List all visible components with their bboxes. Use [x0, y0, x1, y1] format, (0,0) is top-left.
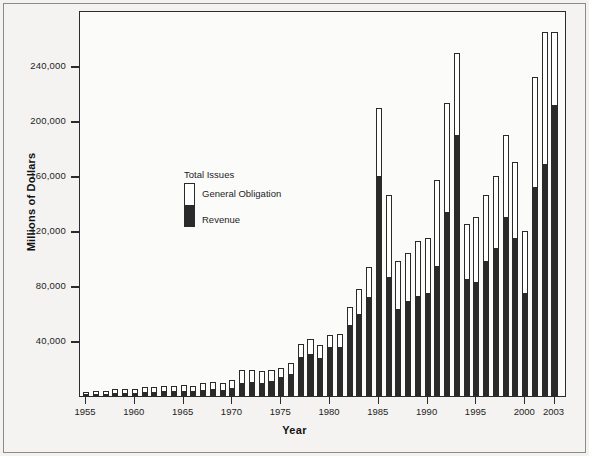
bar-segment-revenue: [132, 393, 138, 396]
bar-segment-revenue: [103, 394, 109, 396]
bar-segment-revenue: [425, 293, 431, 396]
plot-area: Total Issues General Obligation Revenue: [79, 11, 566, 397]
bar-segment-revenue: [415, 296, 421, 396]
bar-1995: [473, 217, 479, 396]
y-tick-label-120000: 120,000: [30, 225, 66, 236]
y-tick-120000: [71, 231, 79, 233]
bar-segment-general-obligation: [356, 289, 362, 315]
y-tick-label-40000: 40,000: [36, 335, 66, 346]
bar-1966: [190, 386, 196, 396]
x-tick-label-1985: 1985: [367, 406, 388, 417]
bar-segment-general-obligation: [347, 307, 353, 326]
bar-1992: [444, 103, 450, 396]
bar-segment-general-obligation: [395, 261, 401, 310]
x-tick-1975: [280, 397, 281, 404]
bar-2001: [532, 77, 538, 396]
bar-segment-revenue: [405, 301, 411, 396]
bar-segment-general-obligation: [454, 53, 460, 136]
bar-1960: [132, 389, 138, 396]
bar-1956: [93, 391, 99, 396]
x-tick-label-1955: 1955: [74, 406, 95, 417]
bar-segment-general-obligation: [464, 224, 470, 280]
bar-1981: [337, 334, 343, 397]
bar-segment-revenue: [161, 391, 167, 396]
bar-segment-revenue: [542, 164, 548, 396]
bar-1988: [405, 253, 411, 396]
x-tick-1990: [427, 397, 428, 404]
x-tick-1980: [329, 397, 330, 404]
x-tick-label-1980: 1980: [318, 406, 339, 417]
x-tick-label-1965: 1965: [172, 406, 193, 417]
bar-1961: [142, 387, 148, 396]
bar-1980: [327, 335, 333, 396]
bar-segment-revenue: [347, 325, 353, 396]
x-tick-label-2003: 2003: [543, 406, 564, 417]
bar-segment-revenue: [337, 347, 343, 396]
bar-segment-revenue: [473, 282, 479, 396]
bar-1983: [356, 289, 362, 396]
legend-swatch-icon: [184, 183, 195, 227]
bar-1957: [103, 391, 109, 396]
bar-1986: [386, 195, 392, 396]
bar-segment-revenue: [93, 394, 99, 396]
bar-segment-revenue: [278, 377, 284, 396]
bar-segment-general-obligation: [317, 345, 323, 359]
bar-2003: [551, 32, 557, 396]
bar-segment-revenue: [259, 383, 265, 396]
bar-1973: [259, 371, 265, 396]
bar-1993: [454, 53, 460, 396]
bar-1965: [181, 385, 187, 396]
bar-1964: [171, 386, 177, 396]
bar-segment-general-obligation: [425, 238, 431, 294]
bar-segment-revenue: [317, 358, 323, 396]
bar-segment-revenue: [327, 347, 333, 396]
bar-segment-general-obligation: [444, 103, 450, 213]
x-tick-2003: [554, 397, 555, 404]
bar-1974: [268, 370, 274, 396]
bar-1998: [503, 135, 509, 396]
bar-segment-revenue: [249, 382, 255, 396]
figure: Millions of Dollars Year 40,00080,000120…: [0, 0, 589, 456]
y-tick-label-240000: 240,000: [30, 60, 66, 71]
x-tick-1955: [85, 397, 86, 404]
bar-segment-revenue: [376, 176, 382, 396]
x-tick-label-1990: 1990: [416, 406, 437, 417]
x-tick-1960: [134, 397, 135, 404]
bar-segment-revenue: [522, 293, 528, 396]
bar-segment-revenue: [171, 391, 177, 396]
bar-1977: [298, 344, 304, 396]
y-tick-160000: [71, 176, 79, 178]
x-tick-2000: [524, 397, 525, 404]
bar-segment-revenue: [151, 392, 157, 396]
bar-1991: [434, 180, 440, 396]
bar-segment-revenue: [298, 357, 304, 396]
bar-1975: [278, 368, 284, 396]
bar-segment-revenue: [190, 391, 196, 396]
bar-1999: [512, 162, 518, 396]
bar-1994: [464, 224, 470, 396]
x-tick-1965: [183, 397, 184, 404]
bar-2000: [522, 231, 528, 396]
y-tick-40000: [71, 341, 79, 343]
bar-segment-revenue: [434, 266, 440, 397]
bar-1997: [493, 176, 499, 396]
bar-segment-revenue: [493, 248, 499, 396]
bar-1970: [229, 380, 235, 396]
bar-1967: [200, 383, 206, 396]
bar-segment-revenue: [288, 374, 294, 396]
x-tick-1970: [231, 397, 232, 404]
bar-segment-revenue: [356, 314, 362, 396]
y-tick-240000: [71, 66, 79, 68]
bar-segment-revenue: [454, 135, 460, 396]
bar-segment-revenue: [210, 389, 216, 396]
bar-segment-revenue: [200, 390, 206, 396]
bar-1989: [415, 241, 421, 396]
legend-heading: Total Issues: [184, 169, 234, 180]
chart-legend: Total Issues General Obligation Revenue: [180, 169, 350, 231]
bar-segment-revenue: [366, 297, 372, 396]
x-tick-label-2000: 2000: [514, 406, 535, 417]
bar-segment-general-obligation: [512, 162, 518, 239]
bar-segment-revenue: [503, 217, 509, 396]
bar-segment-revenue: [181, 391, 187, 396]
bar-segment-revenue: [395, 309, 401, 396]
